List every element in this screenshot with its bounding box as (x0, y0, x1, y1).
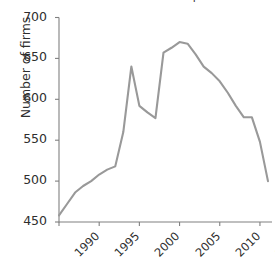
x-tick-marks (59, 222, 260, 226)
chart-container: Number of firms in the UK professional s… (0, 0, 275, 261)
axes (55, 18, 272, 227)
data-line-number-of-firms (59, 42, 268, 215)
plot-area (0, 0, 275, 261)
y-tick-marks (55, 18, 59, 223)
